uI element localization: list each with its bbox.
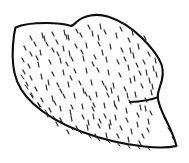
hat-drawing-svg: Line drawing of a wide-brimmed straw sun… <box>0 0 189 163</box>
hat-illustration-canvas: Line drawing of a wide-brimmed straw sun… <box>0 0 189 163</box>
